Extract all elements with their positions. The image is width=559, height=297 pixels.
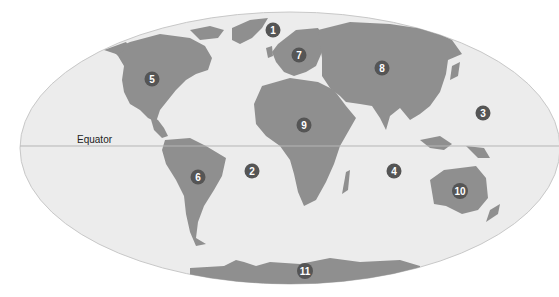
svg-text:8: 8 (379, 63, 385, 74)
marker-3[interactable]: 3 (476, 106, 491, 121)
world-map: Equator 1 2 3 4 5 6 7 8 9 10 11 (0, 0, 559, 297)
marker-4[interactable]: 4 (387, 164, 402, 179)
svg-text:7: 7 (296, 50, 302, 61)
svg-text:10: 10 (454, 186, 466, 197)
marker-6[interactable]: 6 (191, 170, 206, 185)
svg-text:3: 3 (480, 108, 486, 119)
marker-5[interactable]: 5 (145, 72, 160, 87)
svg-text:4: 4 (391, 166, 397, 177)
marker-7[interactable]: 7 (292, 48, 307, 63)
equator-label: Equator (77, 134, 113, 145)
marker-10[interactable]: 10 (452, 183, 468, 199)
svg-text:5: 5 (149, 74, 155, 85)
marker-9[interactable]: 9 (297, 118, 312, 133)
svg-text:11: 11 (300, 266, 311, 277)
svg-text:6: 6 (195, 172, 201, 183)
svg-text:1: 1 (270, 25, 276, 36)
marker-8[interactable]: 8 (375, 61, 390, 76)
marker-11[interactable]: 11 (297, 263, 313, 279)
svg-text:9: 9 (301, 120, 307, 131)
marker-1[interactable]: 1 (266, 23, 281, 38)
marker-2[interactable]: 2 (245, 164, 260, 179)
svg-text:2: 2 (249, 166, 255, 177)
